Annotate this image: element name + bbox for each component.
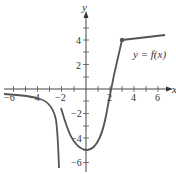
middle-branch-curve [61,40,122,150]
closed-point [120,38,124,42]
function-graph: −6 −4 −2 2 4 6 4 2 −2 −4 −6 y x y = f(x) [0,0,176,174]
left-branch-curve [4,94,59,168]
y-tick-label: −6 [71,157,82,168]
x-tick-label: −2 [55,92,66,103]
y-tick-label: −2 [71,108,82,119]
y-axis-label: y [81,1,87,13]
right-branch-line [122,35,165,40]
x-axis-label: x [171,83,176,95]
x-tick-label: 6 [155,92,160,103]
function-label: y = f(x) [132,48,166,61]
y-tick-label: 2 [76,60,81,71]
x-tick-label: 4 [131,92,136,103]
y-tick-label: 4 [76,35,81,46]
